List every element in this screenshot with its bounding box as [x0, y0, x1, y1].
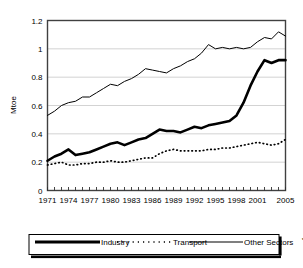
y-tick-label: 0.8	[31, 73, 43, 82]
y-tick-label: 0	[38, 187, 43, 196]
chart-canvas: 00.20.40.60.811.2 1971197419771980198319…	[0, 0, 303, 268]
legend-border	[29, 235, 279, 255]
y-tick-label: 1.2	[31, 17, 43, 26]
x-tick-label: 1977	[81, 196, 99, 205]
x-tick-label: 2005	[277, 196, 295, 205]
gridlines	[48, 49, 286, 162]
y-tick-label: 0.6	[31, 102, 43, 111]
x-tick-label: 1980	[102, 196, 120, 205]
x-tick-label: 1989	[165, 196, 183, 205]
x-tick-label: 1971	[39, 196, 57, 205]
x-tick-label: 1992	[186, 196, 204, 205]
x-tick-label: 2001	[249, 196, 267, 205]
data-series	[48, 32, 286, 165]
x-tick-label: 1995	[207, 196, 225, 205]
legend-footnote-marker: ****	[302, 237, 303, 243]
series-line-industry	[48, 60, 286, 161]
legend-label-other-sectors: Other Sectors	[244, 238, 293, 247]
series-line-other-sectors	[48, 32, 286, 116]
x-axis-tick-labels: 1971197419771980198319861989199219951998…	[39, 196, 295, 205]
x-tick-label: 1998	[228, 196, 246, 205]
x-tick-label: 1986	[144, 196, 162, 205]
legend-box: IndustryTransportOther Sectors****	[29, 235, 303, 259]
y-axis-label: Mtoe	[9, 96, 18, 114]
y-tick-label: 0.2	[31, 158, 43, 167]
x-tick-label: 1983	[123, 196, 141, 205]
y-axis-tick-labels: 00.20.40.60.811.2	[31, 17, 43, 196]
legend-shadow	[31, 256, 281, 259]
legend-label-industry: Industry	[101, 238, 129, 247]
line-chart: 00.20.40.60.811.2 1971197419771980198319…	[0, 0, 303, 268]
y-tick-label: 1	[38, 45, 43, 54]
y-tick-label: 0.4	[31, 130, 43, 139]
x-tick-label: 1974	[60, 196, 78, 205]
